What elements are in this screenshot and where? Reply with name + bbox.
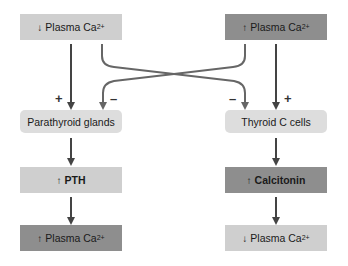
pth-box: ↑ PTH [20, 167, 122, 193]
inhibit-arrow-to-parathyroid [103, 44, 245, 106]
result-low-plasma-calcium-box: ↓ Plasma Ca2+ [225, 225, 327, 251]
high-plasma-calcium-box: ↑ Plasma Ca2+ [225, 14, 327, 40]
up-arrow-icon: ↑ [247, 175, 252, 186]
up-arrow-icon: ↑ [242, 22, 247, 33]
calcitonin-box: ↑ Calcitonin [225, 167, 327, 193]
up-arrow-icon: ↑ [37, 233, 42, 244]
parathyroid-glands-box: Parathyroid glands [20, 110, 122, 133]
inhibit-sign-right: – [229, 91, 236, 106]
down-arrow-icon: ↓ [242, 233, 247, 244]
thyroid-c-cells-box: Thyroid C cells [225, 110, 327, 133]
low-plasma-calcium-box: ↓ Plasma Ca2+ [20, 14, 122, 40]
stimulate-sign-right: + [284, 91, 292, 106]
stimulate-sign-left: + [55, 91, 63, 106]
down-arrow-icon: ↓ [37, 22, 42, 33]
result-high-plasma-calcium-box: ↑ Plasma Ca2+ [20, 225, 122, 251]
inhibit-sign-left: – [110, 91, 117, 106]
up-arrow-icon: ↑ [57, 175, 62, 186]
